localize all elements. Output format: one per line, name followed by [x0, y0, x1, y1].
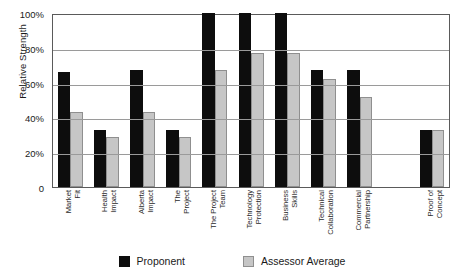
bar-chart: Relative Strength 100%80%60%40%20%0 Mark… — [0, 0, 464, 275]
bar-proponent — [275, 13, 287, 187]
x-label-line-1: Health — [100, 190, 109, 212]
gridline — [53, 85, 449, 86]
x-axis-category-label: MarketFit — [65, 190, 77, 248]
x-label-line-1: Market — [64, 190, 73, 213]
bar-assessor-average — [106, 137, 118, 187]
gray-square-icon — [243, 256, 254, 267]
x-label-line-2: Impact — [110, 190, 119, 248]
gridline — [53, 154, 449, 155]
x-label-line-1: Alberta — [137, 190, 146, 214]
legend-item[interactable]: Assessor Average — [243, 255, 345, 267]
bar-proponent — [130, 70, 142, 187]
bar-proponent — [239, 13, 251, 187]
bar-proponent — [166, 130, 178, 187]
x-axis-category-label: BusinessSkills — [282, 190, 294, 248]
bars-layer — [53, 15, 449, 187]
x-axis-category-label: TechnicalCollaboration — [318, 190, 330, 248]
x-label-line-1: Proof of — [426, 190, 435, 217]
x-axis-category-label: HealthImpact — [101, 190, 113, 248]
bar-proponent — [420, 130, 432, 187]
y-axis-tick-label: 40% — [25, 113, 44, 124]
plot-area — [52, 14, 450, 188]
x-label-line-2: Skills — [291, 190, 300, 248]
y-axis-tick-label: 60% — [25, 78, 44, 89]
x-axis-category-label: CommercialPartnership — [355, 190, 367, 248]
y-axis-tick-label: 80% — [25, 43, 44, 54]
gridline — [53, 119, 449, 120]
x-axis-category-label: The ProjectTeam — [210, 190, 222, 248]
x-axis-category-label: TheProject — [174, 190, 186, 248]
x-label-line-2: Fit — [74, 190, 83, 248]
legend-label: Proponent — [137, 255, 185, 267]
x-label-line-2: Concept — [436, 190, 445, 248]
x-axis-category-label: TechnologyProtection — [246, 190, 258, 248]
x-label-line-2: Collaboration — [327, 190, 336, 248]
x-label-line-1: The Project — [209, 190, 218, 229]
x-label-line-2: Project — [182, 190, 191, 248]
x-axis-category-labels: MarketFitHealthImpactAlbertaImpactThePro… — [0, 190, 464, 250]
x-label-line-1: The — [173, 190, 182, 203]
y-axis-tick-label: 100% — [20, 9, 44, 20]
x-label-line-2: Impact — [146, 190, 155, 248]
gridline — [53, 50, 449, 51]
legend-label: Assessor Average — [261, 255, 345, 267]
x-axis-category-label: AlbertaImpact — [138, 190, 150, 248]
legend-item[interactable]: Proponent — [119, 255, 185, 267]
x-label-line-1: Commercial — [354, 190, 363, 231]
bar-assessor-average — [143, 112, 155, 187]
chart-legend: ProponentAssessor Average — [0, 252, 464, 270]
bar-proponent — [311, 70, 323, 187]
black-square-icon — [119, 256, 130, 267]
bar-proponent — [94, 130, 106, 187]
bar-proponent — [347, 70, 359, 187]
bar-proponent — [58, 72, 70, 187]
x-label-line-1: Business — [281, 190, 290, 221]
bar-assessor-average — [360, 97, 372, 187]
bar-assessor-average — [179, 137, 191, 187]
x-label-line-1: Technology — [245, 190, 254, 228]
x-label-line-2: Protection — [255, 190, 264, 248]
x-label-line-2: Partnership — [363, 190, 372, 248]
bar-assessor-average — [70, 112, 82, 187]
x-label-line-2: Team — [219, 190, 228, 248]
bar-proponent — [202, 13, 214, 187]
bar-assessor-average — [215, 70, 227, 187]
bar-assessor-average — [432, 130, 444, 187]
y-axis-tick-label: 20% — [25, 148, 44, 159]
x-axis-category-label: Proof ofConcept — [427, 190, 439, 248]
bar-assessor-average — [323, 79, 335, 187]
